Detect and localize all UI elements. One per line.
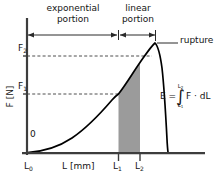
formula-limits: L2∫L1	[176, 84, 185, 109]
x-tick-label-l2-sub: 2	[140, 165, 144, 172]
x-tick-label-l0: L0	[24, 162, 33, 171]
y-tick-label-f2-sub: 2	[23, 47, 27, 54]
integral-shaded-area	[119, 63, 141, 154]
exponential-portion-arrow	[28, 32, 117, 37]
rupture-label: rupture	[180, 36, 213, 45]
exponential-portion-line2: portion	[30, 15, 116, 24]
exponential-portion-label: exponential portion	[30, 4, 116, 24]
y-axis-title: F [N]	[6, 77, 15, 117]
formula-lhs: E =	[160, 92, 176, 101]
force-extension-figure: exponential portion linear portion ruptu…	[0, 0, 219, 185]
force-extension-curve	[28, 43, 169, 153]
x-tick-label-l1-sub: 1	[118, 165, 122, 172]
linear-portion-line1: linear	[112, 4, 164, 13]
y-tick-label-f1: F1	[18, 82, 27, 91]
formula-lower-limit-sub: 1	[181, 104, 184, 109]
x-tick-label-l0-sub: 0	[29, 165, 33, 172]
formula-integrand: F · dL	[186, 92, 211, 101]
y-tick-label-f1-sub: 1	[23, 85, 27, 92]
integral-sign-icon: ∫	[176, 90, 185, 104]
energy-formula: E =L2∫L1F · dL	[160, 84, 210, 109]
y-tick-label-zero: 0	[30, 130, 36, 139]
y-tick-label-f2: F2	[18, 44, 27, 53]
linear-portion-arrow	[120, 32, 155, 37]
exponential-portion-line1: exponential	[30, 4, 116, 13]
linear-portion-line2: portion	[112, 15, 164, 24]
linear-portion-label: linear portion	[112, 4, 164, 24]
x-axis-title: L [mm]	[62, 162, 94, 171]
x-tick-label-l2: L2	[135, 162, 144, 171]
x-tick-label-l1: L1	[113, 162, 122, 171]
